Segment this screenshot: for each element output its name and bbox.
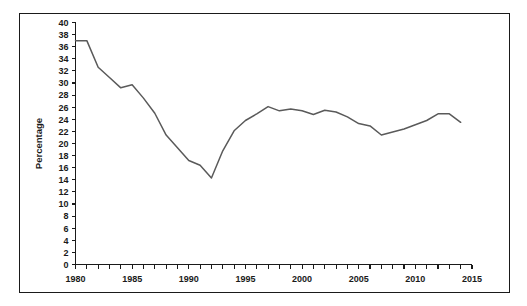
x-axis-tick-marks <box>76 265 473 269</box>
x-axis-tick-labels: 19801985199019952000200520102015 <box>65 274 482 284</box>
x-tick-label: 2000 <box>292 274 312 284</box>
data-series-line <box>76 41 461 178</box>
y-tick-label: 0 <box>63 260 68 270</box>
y-tick-label: 16 <box>58 163 68 173</box>
x-tick-label: 1990 <box>179 274 199 284</box>
y-tick-label: 8 <box>63 211 68 221</box>
y-tick-label: 40 <box>58 18 68 28</box>
y-tick-label: 30 <box>58 78 68 88</box>
y-tick-label: 12 <box>58 187 68 197</box>
y-tick-label: 6 <box>63 224 68 234</box>
x-tick-label: 1980 <box>65 274 85 284</box>
x-tick-label: 2005 <box>349 274 369 284</box>
x-tick-label: 2015 <box>462 274 482 284</box>
y-axis-tick-marks <box>72 23 76 265</box>
y-axis-title: Percentage <box>33 118 44 169</box>
y-tick-label: 32 <box>58 66 68 76</box>
y-tick-label: 36 <box>58 42 68 52</box>
line-chart: 0246810121416182022242628303234363840 19… <box>0 0 527 306</box>
y-tick-label: 38 <box>58 30 68 40</box>
y-tick-label: 18 <box>58 151 68 161</box>
x-tick-label: 2010 <box>405 274 425 284</box>
x-tick-label: 1995 <box>235 274 255 284</box>
y-tick-label: 34 <box>58 54 68 64</box>
x-tick-label: 1985 <box>122 274 142 284</box>
y-tick-label: 26 <box>58 103 68 113</box>
y-tick-label: 14 <box>58 175 68 185</box>
y-tick-label: 24 <box>58 115 68 125</box>
y-tick-label: 4 <box>63 236 68 246</box>
y-tick-label: 20 <box>58 139 68 149</box>
y-tick-label: 28 <box>58 90 68 100</box>
y-tick-label: 2 <box>63 248 68 258</box>
y-axis-tick-labels: 0246810121416182022242628303234363840 <box>58 18 68 270</box>
chart-figure: 0246810121416182022242628303234363840 19… <box>0 0 527 306</box>
y-tick-label: 10 <box>58 199 68 209</box>
y-tick-label: 22 <box>58 127 68 137</box>
